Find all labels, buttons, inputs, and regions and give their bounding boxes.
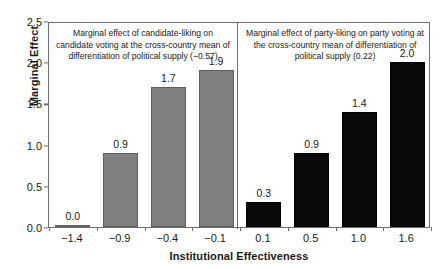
x-tick-mark xyxy=(383,227,384,231)
bar xyxy=(199,70,234,227)
x-tick-label: 1.6 xyxy=(398,232,413,244)
x-tick-mark xyxy=(192,227,193,231)
y-tick-mark xyxy=(44,186,48,187)
bar xyxy=(294,153,329,227)
panel-divider xyxy=(237,23,238,229)
x-tick-label: −1.4 xyxy=(61,232,83,244)
y-tick-mark xyxy=(44,145,48,146)
bar-value-label: 2.0 xyxy=(400,47,415,59)
x-tick-mark xyxy=(431,227,432,231)
bar-value-label: 0.0 xyxy=(66,210,81,222)
bar xyxy=(55,225,90,228)
x-tick-label: −0.4 xyxy=(157,232,179,244)
y-tick-label: 0.0 xyxy=(4,222,48,234)
x-tick-label: 1.0 xyxy=(351,232,366,244)
plot-area: Marginal effect of candidate-liking on c… xyxy=(48,22,430,228)
y-tick-label: 0.5 xyxy=(4,181,48,193)
bar-value-label: 1.4 xyxy=(352,97,367,109)
bar xyxy=(390,62,425,227)
chart-figure: Marginal Effect Institutional Effectiven… xyxy=(0,0,448,269)
y-tick-mark xyxy=(44,227,48,228)
x-tick-label: 0.1 xyxy=(255,232,270,244)
bar xyxy=(246,202,281,227)
bar xyxy=(151,87,186,227)
bar-value-label: 0.3 xyxy=(257,187,272,199)
y-tick-mark xyxy=(44,63,48,64)
x-tick-mark xyxy=(336,227,337,231)
x-tick-mark xyxy=(240,227,241,231)
x-tick-label: 0.5 xyxy=(303,232,318,244)
bar-value-label: 1.9 xyxy=(209,55,224,67)
x-tick-label: −0.1 xyxy=(204,232,226,244)
y-tick-mark xyxy=(44,104,48,105)
panel-annotation-candidate: Marginal effect of candidate-liking on c… xyxy=(55,28,231,63)
x-tick-mark xyxy=(288,227,289,231)
y-tick-label: 2.0 xyxy=(4,57,48,69)
panel-annotation-party: Marginal effect of party-liking on party… xyxy=(245,28,425,63)
y-tick-label: 2.5 xyxy=(4,16,48,28)
x-tick-mark xyxy=(49,227,50,231)
bar xyxy=(103,153,138,227)
y-tick-label: 1.5 xyxy=(4,98,48,110)
x-tick-mark xyxy=(97,227,98,231)
y-tick-mark xyxy=(44,21,48,22)
bar-value-label: 1.7 xyxy=(161,72,176,84)
bar-value-label: 0.9 xyxy=(304,138,319,150)
bar-value-label: 0.9 xyxy=(113,138,128,150)
x-axis-title: Institutional Effectiveness xyxy=(48,250,430,262)
bar xyxy=(342,112,377,227)
x-tick-mark xyxy=(145,227,146,231)
y-tick-label: 1.0 xyxy=(4,140,48,152)
x-tick-label: −0.9 xyxy=(109,232,131,244)
